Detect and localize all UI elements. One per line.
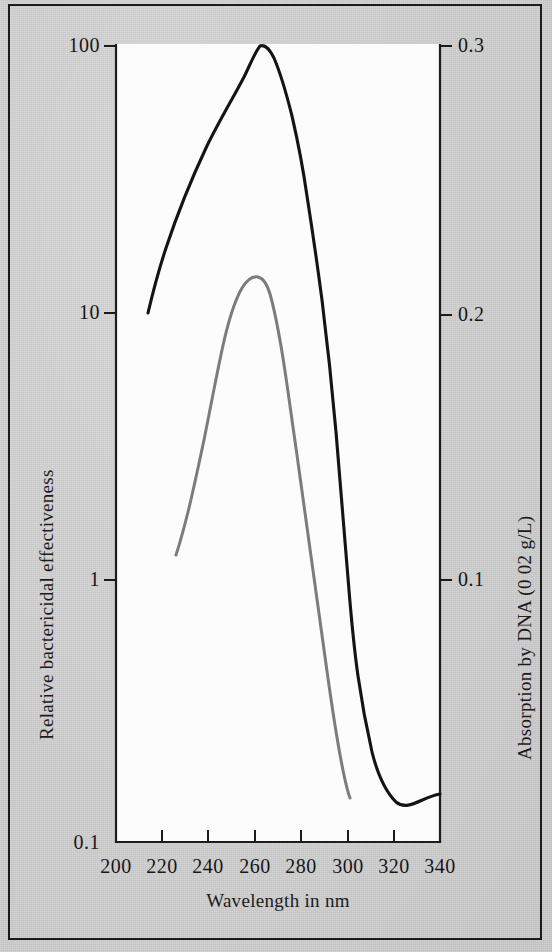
figure-outer-border xyxy=(8,4,542,940)
